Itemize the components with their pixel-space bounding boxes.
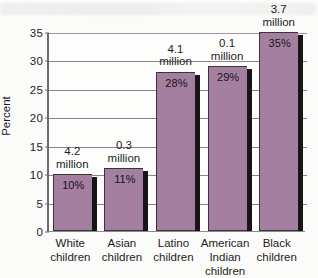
bar-value-label: 10% <box>54 179 93 191</box>
bar: 10% <box>53 174 92 231</box>
bar-value-label: 28% <box>157 77 196 89</box>
y-tick-label: 5 <box>36 198 43 210</box>
bar-series: 10%4.2 million11%0.3 million28%4.1 milli… <box>49 32 307 231</box>
bar-group: 35% <box>259 32 302 231</box>
bar-annotation: 3.7 million <box>248 3 310 28</box>
y-tick-label: 25 <box>30 84 43 96</box>
bar: 11% <box>104 168 143 231</box>
x-axis-label: Black children <box>241 236 313 264</box>
bar-shadow <box>195 75 200 231</box>
bar-group: 10% <box>53 32 96 231</box>
bar-value-label: 11% <box>105 173 144 185</box>
bar: 29% <box>208 66 247 231</box>
plot-area: 05101520253035 10%4.2 million11%0.3 mill… <box>47 33 305 232</box>
bar: 28% <box>156 72 195 231</box>
bar-annotation: 0.3 million <box>93 139 155 164</box>
y-axis-title: Percent <box>0 96 12 136</box>
bar: 35% <box>259 32 298 231</box>
bar-value-label: 29% <box>209 71 248 83</box>
y-tick-label: 20 <box>30 112 43 124</box>
bar-shadow <box>298 35 303 231</box>
y-tick-label: 10 <box>30 169 43 181</box>
y-tick-label: 30 <box>30 55 43 67</box>
y-tick-mark <box>45 232 49 233</box>
bar-value-label: 35% <box>260 37 299 49</box>
bar-annotation: 0.1 million <box>196 37 258 62</box>
bar-shadow <box>247 69 252 231</box>
bar-group: 11% <box>104 32 147 231</box>
y-tick-label: 35 <box>30 27 43 39</box>
